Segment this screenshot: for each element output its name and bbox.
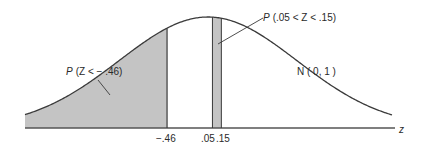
diagram-canvas: P(Z < − .46) P(.05 < Z < .15) N ( 0, 1 )… [0, 0, 426, 151]
strip-shaded-region [212, 17, 221, 128]
tick-label-neg046: −.46 [156, 133, 176, 144]
tick-label-005: .05 [201, 133, 215, 144]
tail-probability-label: P(Z < − .46) [66, 66, 122, 77]
strip-label-leader [218, 18, 263, 44]
axis-label-z: z [398, 124, 404, 135]
distribution-label: N ( 0, 1 ) [297, 66, 336, 77]
normal-distribution-diagram: P(Z < − .46) P(.05 < Z < .15) N ( 0, 1 )… [0, 0, 426, 151]
tick-label-015: .15 [216, 133, 230, 144]
strip-probability-label: P(.05 < Z < .15) [263, 12, 336, 23]
